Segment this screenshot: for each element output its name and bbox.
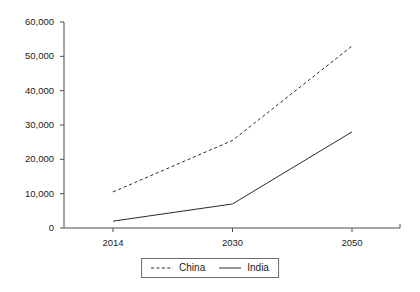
legend-entry-china: China [151, 262, 205, 273]
legend-label-china: China [179, 262, 205, 273]
series-line-china [113, 46, 352, 192]
legend-entry-india: India [219, 262, 269, 273]
legend-label-india: India [247, 262, 269, 273]
legend-swatch-china-dashed-icon [151, 264, 173, 272]
series-line-india [113, 132, 352, 221]
legend-swatch-india-solid-icon [219, 264, 241, 272]
line-chart: 010,00020,00030,00040,00050,00060,000 20… [0, 0, 420, 292]
plot-area [0, 0, 420, 292]
chart-legend: China India [141, 258, 279, 278]
